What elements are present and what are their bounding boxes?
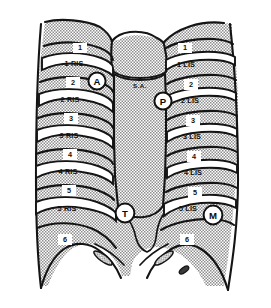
marker-pulmonic[interactable]: P	[154, 92, 171, 109]
space-label-lis3: 3 LIS	[183, 132, 201, 141]
rib-label-l6: 6	[185, 235, 189, 244]
marker-tricuspid[interactable]: T	[116, 204, 135, 223]
rib-label-l2: 2	[189, 80, 193, 89]
marker-letter-tricuspid: T	[122, 208, 128, 219]
rib-label-r1: 1	[78, 43, 82, 52]
rib-label-l3: 3	[191, 116, 195, 125]
chest-diagram: S.A. 1 2 3 4 5 6	[0, 0, 271, 308]
space-label-ris1: 1 RIS	[65, 59, 84, 68]
rib-label-r3: 3	[69, 114, 73, 123]
chest-svg: S.A. 1 2 3 4 5 6	[0, 0, 271, 308]
space-label-lis2: 2 LIS	[181, 96, 199, 105]
space-label-ris3: 3 RIS	[60, 131, 79, 140]
marker-mitral[interactable]: M	[204, 206, 223, 225]
rib-label-r6: 6	[63, 235, 67, 244]
marker-letter-aortic: A	[94, 76, 101, 87]
space-label-ris4: 4 RIS	[59, 167, 78, 176]
rib-label-r5: 5	[67, 186, 71, 195]
space-label-lis1: 1 LIS	[177, 60, 195, 69]
rib-label-l1: 1	[183, 43, 187, 52]
rib-label-l5: 5	[193, 188, 197, 197]
space-label-ris2: 2 RIS	[61, 95, 80, 104]
space-label-lis4: 4 LIS	[184, 168, 202, 177]
rib-label-r2: 2	[71, 78, 75, 87]
sternal-angle-label: S.A.	[133, 82, 147, 89]
space-label-ris5: 5 RIS	[58, 204, 77, 213]
landmark-oval	[178, 265, 190, 276]
marker-letter-mitral: M	[209, 210, 217, 221]
marker-aortic[interactable]: A	[88, 72, 105, 89]
space-label-lis5: 5 LIS	[179, 204, 197, 213]
marker-letter-pulmonic: P	[160, 96, 167, 107]
